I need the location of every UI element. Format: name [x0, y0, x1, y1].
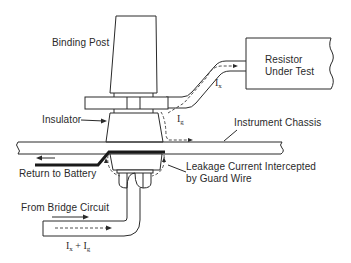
mounting-nut	[104, 154, 166, 188]
current-ix-label: Ix	[215, 77, 222, 92]
terminal-band	[85, 97, 168, 113]
from-bridge-circuit-label: From Bridge Circuit	[21, 202, 109, 214]
resistor-label-line1: Resistor	[265, 54, 302, 66]
resistor-label-line2: Under Test	[265, 66, 314, 78]
leakage-label-line1: Leakage Current Intercepted	[186, 161, 316, 173]
chassis-pointer	[224, 130, 237, 141]
binding-post-label: Binding Post	[52, 37, 109, 49]
insulator-label: Insulator	[42, 114, 81, 126]
instrument-chassis-label: Instrument Chassis	[234, 117, 321, 129]
return-to-battery-label: Return to Battery	[19, 168, 96, 180]
current-ig-label: Ig	[177, 113, 184, 128]
leakage-pointer	[168, 165, 186, 172]
insulator-pointer	[81, 119, 107, 124]
guard-circuit-diagram: Binding Post Resistor Under Test Ix Ig I…	[0, 0, 351, 263]
leakage-label-line2: by Guard Wire	[186, 173, 252, 185]
resistor-lead	[166, 61, 246, 113]
binding-post	[110, 16, 157, 97]
current-sum-label: Ix + Ig	[66, 240, 90, 255]
